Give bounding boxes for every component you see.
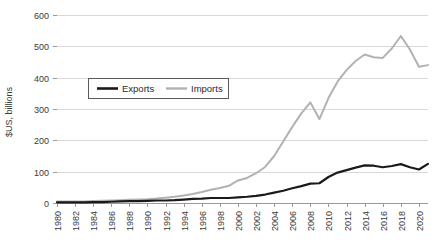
x-tick-label: 2020 [415, 211, 425, 231]
y-tick-labels-group: 0100200300400500600 [34, 11, 49, 209]
x-tick-label: 1982 [71, 211, 81, 231]
y-tick-label: 400 [34, 74, 49, 84]
x-tick-labels-group: 1980198219841986198819901992199419961998… [53, 211, 425, 231]
x-tick-label: 2008 [306, 211, 316, 231]
x-tick-label: 1990 [143, 211, 153, 231]
gridlines-group [53, 16, 428, 204]
x-tick-label: 1980 [53, 211, 63, 231]
y-tick-label: 500 [34, 42, 49, 52]
x-tick-label: 1998 [216, 211, 226, 231]
x-tick-label: 1992 [162, 211, 172, 231]
x-tick-label: 2006 [288, 211, 298, 231]
series-line-exports [57, 164, 428, 203]
x-tick-label: 2018 [397, 211, 407, 231]
x-tick-label: 1986 [107, 211, 117, 231]
y-tick-label: 300 [34, 105, 49, 115]
x-tick-label: 1996 [198, 211, 208, 231]
y-tick-label: 100 [34, 168, 49, 178]
line-chart: 0100200300400500600 19801982198419861988… [0, 0, 436, 243]
x-tick-label: 2000 [234, 211, 244, 231]
legend-label-exports: Exports [122, 83, 154, 94]
x-tick-label: 1994 [180, 211, 190, 231]
y-tick-label: 0 [44, 199, 49, 209]
y-axis-title: $US, billions [4, 86, 14, 137]
series-group [57, 36, 428, 202]
x-tick-label: 1984 [89, 211, 99, 231]
x-tick-label: 2016 [379, 211, 389, 231]
y-tick-label: 200 [34, 136, 49, 146]
series-line-imports [57, 36, 428, 201]
x-tick-label: 2014 [361, 211, 371, 231]
x-tick-label: 2002 [252, 211, 262, 231]
x-tick-marks-group [58, 203, 420, 207]
x-tick-label: 2012 [343, 211, 353, 231]
legend: Exports Imports [89, 79, 229, 99]
y-axis-title-group: $US, billions [4, 86, 14, 137]
chart-container: 0100200300400500600 19801982198419861988… [0, 0, 436, 243]
y-tick-label: 600 [34, 11, 49, 21]
legend-label-imports: Imports [191, 83, 223, 94]
x-tick-label: 2004 [270, 211, 280, 231]
x-tick-label: 1988 [125, 211, 135, 231]
x-tick-label: 2010 [324, 211, 334, 231]
